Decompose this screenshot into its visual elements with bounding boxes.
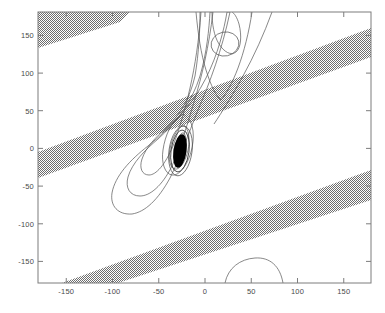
ytick-label-1: 100 xyxy=(12,69,34,78)
xtick-label-2: -50 xyxy=(153,287,164,296)
xtick-label-5: 100 xyxy=(291,287,304,296)
xtick-label-6: 150 xyxy=(337,287,350,296)
ytick-label-6: -150 xyxy=(12,257,34,266)
xtick-label-1: -100 xyxy=(105,287,121,296)
ytick-label-3: 0 xyxy=(12,144,34,153)
xtick-label-0: -150 xyxy=(58,287,74,296)
ytick-label-0: 150 xyxy=(12,31,34,40)
xtick-label-3: 0 xyxy=(203,287,207,296)
ytick-label-2: 50 xyxy=(12,106,34,115)
ytick-label-4: -50 xyxy=(12,182,34,191)
xtick-label-4: 50 xyxy=(247,287,256,296)
ytick-label-5: -100 xyxy=(12,219,34,228)
contour-plot-figure: -150 -100 -50 0 50 100 150 150 100 50 0 … xyxy=(0,0,385,313)
plot-canvas xyxy=(0,0,385,313)
